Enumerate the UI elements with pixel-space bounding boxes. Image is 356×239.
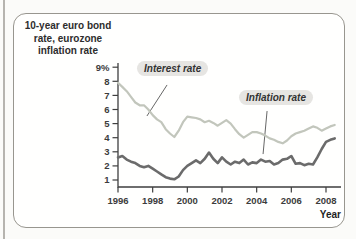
y-tick-label: 2 (104, 160, 109, 171)
inflation-rate-callout-line (263, 111, 267, 154)
y-tick-label: 9% (96, 62, 110, 73)
x-tick-label: 2000 (177, 195, 198, 206)
y-tick-label: 4 (104, 132, 110, 143)
y-tick-label: 5 (104, 118, 110, 129)
x-tick-label: 2006 (281, 195, 302, 206)
x-tick-label: 2004 (246, 195, 268, 206)
x-axis-title: Year (320, 209, 341, 220)
inflation-rate-line (118, 138, 335, 179)
y-tick-label: 3 (104, 146, 109, 157)
y-tick-label: 6 (104, 104, 109, 115)
y-tick-label: 1 (104, 174, 110, 185)
x-tick-label: 2008 (315, 195, 336, 206)
y-tick-label: 8 (104, 76, 109, 87)
x-tick-label: 1996 (107, 195, 128, 206)
x-tick-label: 2002 (211, 195, 232, 206)
interest-rate-label: Interest rate (137, 61, 208, 76)
inflation-rate-label: Inflation rate (239, 90, 313, 105)
y-tick-label: 7 (104, 90, 109, 101)
chart-canvas: 9%876543211996199820002002200420062008Ye… (0, 0, 356, 239)
x-tick-label: 1998 (142, 195, 163, 206)
